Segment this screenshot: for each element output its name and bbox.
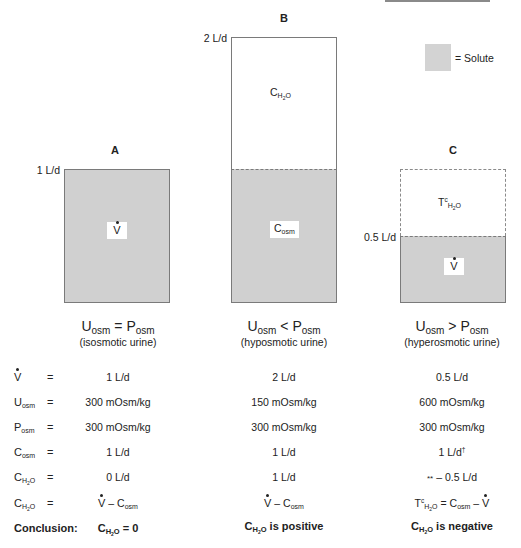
row-uosm-label: Uosm [14, 396, 35, 409]
row-formula-b: V – Cosm [199, 497, 369, 510]
row-ch2o-b: 1 L/d [199, 471, 369, 483]
panel-b-axis-label: 2 L/d [177, 32, 227, 44]
panel-b-solute-label: Cosm [270, 221, 299, 238]
row-cosm-a: 1 L/d [33, 446, 203, 458]
panel-a-letter: A [105, 144, 125, 156]
row-posm-a: 300 mOsm/kg [33, 421, 203, 433]
row-ch2o-a: 0 L/d [33, 471, 203, 483]
panel-c-v-tag: V [444, 258, 464, 275]
row-ch2o-c: ** – 0.5 L/d [367, 471, 521, 483]
row-cosm-label: Cosm [14, 446, 35, 459]
top-divider [385, 0, 490, 2]
panel-b-letter: B [274, 12, 294, 24]
panel-b-description: (hyposmotic urine) [199, 336, 369, 348]
row-cosm-b: 1 L/d [199, 446, 369, 458]
row-v-label: V [14, 371, 21, 383]
legend-solute-swatch [425, 44, 451, 71]
panel-a-v-tag: V [107, 222, 127, 239]
v-dot-label: V [113, 224, 120, 236]
panel-b-water-label: CH2O [270, 86, 291, 101]
row-posm-b: 300 mOsm/kg [199, 421, 369, 433]
row-posm-label: Posm [14, 421, 35, 434]
row-posm-c: 300 mOsm/kg [367, 421, 521, 433]
row-formula-c: TcH2O = Cosm – V [367, 497, 521, 512]
panel-c-water-label: TcH2O [438, 196, 461, 211]
panel-c-relation: Uosm > Posm [367, 318, 521, 336]
panel-c-axis-label: 0.5 L/d [346, 231, 396, 243]
panel-a-description: (isosmotic urine) [33, 336, 203, 348]
legend-solute-label: = Solute [455, 52, 494, 64]
row-v-c: 0.5 L/d [367, 371, 521, 383]
row-formula-a: V – Cosm [33, 497, 203, 510]
row-uosm-c: 600 mOsm/kg [367, 396, 521, 408]
conclusion-b: CH2O is positive [199, 520, 369, 535]
row-uosm-a: 300 mOsm/kg [33, 396, 203, 408]
row-v-b: 2 L/d [199, 371, 369, 383]
panel-c-description: (hyperosmotic urine) [367, 336, 521, 348]
row-uosm-b: 150 mOsm/kg [199, 396, 369, 408]
panel-a-axis-label: 1 L/d [10, 164, 60, 176]
row-cosm-c: 1 L/d† [367, 446, 521, 458]
conclusion-a: CH2O = 0 [33, 522, 203, 537]
conclusion-c: CH2O is negative [367, 520, 521, 535]
panel-b-water-box [231, 37, 337, 170]
panel-a-relation: Uosm = Posm [33, 318, 203, 336]
panel-c-letter: C [443, 144, 463, 156]
row-v-a: 1 L/d [33, 371, 203, 383]
panel-b-relation: Uosm < Posm [199, 318, 369, 336]
